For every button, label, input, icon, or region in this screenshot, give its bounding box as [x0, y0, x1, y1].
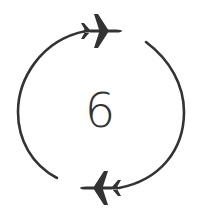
airplane-right-icon [81, 14, 122, 48]
right-arc [119, 42, 184, 188]
left-arc [18, 31, 86, 178]
airplane-left-icon [80, 171, 121, 205]
count-number: 6 [85, 82, 116, 138]
round-trip-icon: 6 [0, 0, 200, 219]
